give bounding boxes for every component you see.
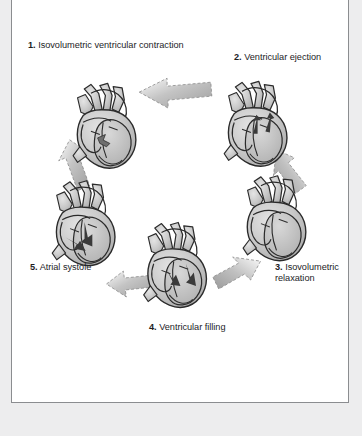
figure-box: 1. Isovolumetric ventricular contraction…	[11, 0, 349, 403]
step-1-label: 1. Isovolumetric ventricular contraction	[28, 40, 198, 51]
step-1-text: Isovolumetric ventricular contraction	[38, 40, 183, 50]
page-margin-bottom	[0, 403, 362, 436]
step-4-number: 4.	[149, 322, 157, 332]
step-1-number: 1.	[28, 40, 36, 50]
heart-step5	[52, 181, 115, 266]
step-5-number: 5.	[30, 262, 38, 272]
step-3-number: 3.	[275, 262, 283, 272]
step-4-label: 4. Ventricular filling	[149, 322, 309, 333]
step-3-text: Isovolumetric relaxation	[275, 262, 339, 283]
arrow-step1-to-step2	[139, 78, 212, 108]
heart-step2	[224, 81, 287, 166]
step-5-label: 5. Atrial systole	[30, 262, 110, 273]
step-2-text: Ventricular ejection	[244, 52, 321, 62]
step-2-label: 2. Ventricular ejection	[234, 52, 362, 63]
step-3-label: 3. Isovolumetric relaxation	[275, 262, 362, 285]
step-4-text: Ventricular filling	[159, 322, 225, 332]
arrow-step3-to-step4	[213, 257, 261, 289]
heart-step4	[144, 222, 207, 307]
step-5-text: Atrial systole	[40, 262, 92, 272]
heart-step1	[73, 83, 136, 168]
step-2-number: 2.	[234, 52, 242, 62]
figure-root: 1. Isovolumetric ventricular contraction…	[0, 0, 362, 436]
